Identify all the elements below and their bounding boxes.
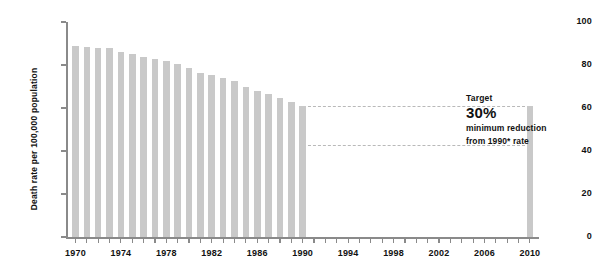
x-tick-mark [313,238,314,243]
bar-1972 [95,48,102,237]
y-tick-label: 0 [546,231,592,241]
x-tick-label: 1986 [237,248,277,258]
x-tick-label: 1982 [192,248,232,258]
bar-1988 [277,98,284,237]
x-tick-mark [393,238,394,243]
x-tick-mark [245,238,246,243]
x-tick-mark [427,238,428,243]
bar-1982 [208,75,215,237]
bar-1984 [231,81,238,237]
bar-1986 [254,91,261,237]
x-tick-label: 2010 [510,248,550,258]
x-tick-mark [109,238,110,243]
y-axis-line [66,22,68,238]
x-tick-mark [86,238,87,243]
target-callout-line2: from 1990* rate [466,135,590,148]
bar-1980 [186,68,193,237]
x-tick-mark [450,238,451,243]
x-tick-mark [302,238,303,243]
x-tick-mark [234,238,235,243]
bar-1981 [197,73,204,237]
bar-1975 [129,54,136,237]
x-tick-mark [166,238,167,243]
x-tick-mark [291,238,292,243]
target-callout: Target 30% minimum reduction from 1990* … [466,92,590,147]
y-tick-mark [61,236,66,238]
x-tick-mark [279,238,280,243]
x-tick-mark [325,238,326,243]
target-callout-title: Target [466,92,590,104]
bar-1971 [84,47,91,237]
x-tick-mark [518,238,519,243]
x-tick-mark [336,238,337,243]
x-tick-label: 1978 [146,248,186,258]
bar-1979 [174,64,181,237]
x-tick-mark [177,238,178,243]
x-tick-mark [268,238,269,243]
y-tick-label: 20 [546,188,592,198]
x-tick-mark [154,238,155,243]
x-tick-mark [473,238,474,243]
x-tick-mark [143,238,144,243]
bar-1987 [265,94,272,237]
bar-1985 [243,87,250,238]
x-tick-mark [438,238,439,243]
x-tick-mark [370,238,371,243]
bar-1989 [288,102,295,237]
x-tick-mark [98,238,99,243]
x-tick-mark [223,238,224,243]
x-tick-mark [529,238,530,243]
y-tick-mark [61,64,66,66]
x-tick-label: 2006 [464,248,504,258]
x-tick-mark [416,238,417,243]
x-tick-label: 1974 [101,248,141,258]
y-tick-mark [61,193,66,195]
chart-canvas: Death rate per 100,000 population 020406… [0,0,592,276]
x-tick-label: 1998 [374,248,414,258]
target-callout-line1: minimum reduction [466,122,590,135]
x-tick-mark [120,238,121,243]
x-tick-mark [188,238,189,243]
x-tick-label: 1994 [328,248,368,258]
x-tick-mark [404,238,405,243]
y-tick-mark [61,150,66,152]
x-tick-mark [348,238,349,243]
bar-1978 [163,61,170,237]
x-tick-mark [507,238,508,243]
x-tick-mark [75,238,76,243]
y-tick-label: 80 [546,59,592,69]
x-tick-mark [382,238,383,243]
bar-1970 [72,46,79,237]
x-tick-mark [495,238,496,243]
y-axis-label: Death rate per 100,000 population [29,39,39,239]
y-tick-mark [61,21,66,23]
x-tick-label: 2002 [419,248,459,258]
y-tick-label: 100 [546,16,592,26]
target-callout-value: 30% [466,104,590,122]
y-tick-mark [61,107,66,109]
bar-1976 [140,57,147,237]
bar-1974 [118,52,125,237]
bar-1990 [299,106,306,237]
x-tick-mark [211,238,212,243]
x-tick-mark [359,238,360,243]
bar-1977 [152,59,159,237]
x-tick-mark [132,238,133,243]
x-tick-mark [200,238,201,243]
x-tick-label: 1990 [283,248,323,258]
x-tick-mark [461,238,462,243]
x-tick-label: 1970 [55,248,95,258]
bar-1973 [106,48,113,237]
x-tick-mark [257,238,258,243]
x-tick-mark [484,238,485,243]
bar-1983 [220,78,227,237]
